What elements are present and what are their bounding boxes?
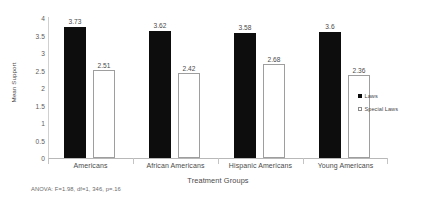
- y-axis-tick-label: 0.5: [5, 137, 45, 144]
- bar-laws[interactable]: 3.58: [234, 33, 256, 158]
- bar-group: 3.582.68Hispanic Americans: [218, 18, 303, 158]
- x-axis-tick-mark: [303, 158, 304, 164]
- bar-value-label: 2.36: [352, 67, 365, 74]
- y-axis-tick-label: 1.5: [5, 102, 45, 109]
- x-axis-category-label: African Americans: [133, 162, 218, 169]
- legend-label: Laws: [365, 93, 378, 99]
- y-axis-tick-labels: 00.511.522.533.54: [0, 0, 45, 209]
- x-axis-tick-mark: [387, 158, 388, 164]
- legend-item[interactable]: Special Laws: [358, 106, 418, 112]
- bar-group-bars: 3.732.51: [48, 18, 133, 158]
- bar-group: 3.732.51Americans: [48, 18, 133, 158]
- bar-chart: Mean Support 00.511.522.533.54 3.732.51A…: [0, 0, 422, 209]
- bar-value-label: 2.42: [182, 65, 195, 72]
- y-axis-tick-label: 1: [5, 120, 45, 127]
- x-axis-tick-mark: [48, 158, 49, 164]
- x-axis-category-label: Americans: [48, 162, 133, 169]
- bar-group: 3.622.42African Americans: [133, 18, 218, 158]
- legend-item[interactable]: Laws: [358, 93, 418, 99]
- bar-groups: 3.732.51Americans3.622.42African America…: [48, 18, 388, 158]
- bar-value-label: 3.62: [153, 22, 166, 29]
- chart-legend: LawsSpecial Laws: [358, 93, 418, 119]
- bar-group-bars: 3.582.68: [218, 18, 303, 158]
- y-axis-tick-label: 4: [5, 15, 45, 22]
- bar-value-label: 2.68: [267, 56, 280, 63]
- x-axis-category-label: Young Americans: [303, 162, 388, 169]
- bar-group-bars: 3.62.36: [303, 18, 388, 158]
- y-axis-tick-label: 2.5: [5, 67, 45, 74]
- bar-value-label: 3.58: [238, 24, 251, 31]
- bar-value-label: 3.73: [68, 18, 81, 25]
- plot-area: 3.732.51Americans3.622.42African America…: [48, 18, 388, 158]
- bar-value-label: 2.51: [97, 62, 110, 69]
- x-axis-tick-mark: [218, 158, 219, 164]
- bar-special-laws[interactable]: 2.42: [178, 73, 200, 158]
- x-axis-category-label: Hispanic Americans: [218, 162, 303, 169]
- legend-label: Special Laws: [365, 106, 399, 112]
- bar-group-bars: 3.622.42: [133, 18, 218, 158]
- anova-annotation: ANOVA: F=1.98, df=1, 346, p=.16: [31, 186, 121, 192]
- y-axis-tick-label: 0: [5, 155, 45, 162]
- y-axis-tick-label: 3.5: [5, 32, 45, 39]
- bar-laws[interactable]: 3.6: [319, 32, 341, 158]
- bar-value-label: 3.6: [325, 23, 334, 30]
- bar-special-laws[interactable]: 2.51: [93, 70, 115, 158]
- legend-swatch-icon: [358, 94, 362, 98]
- x-axis-title: Treatment Groups: [48, 176, 388, 185]
- bar-laws[interactable]: 3.73: [64, 27, 86, 158]
- y-axis-tick-label: 2: [5, 85, 45, 92]
- bar-group: 3.62.36Young Americans: [303, 18, 388, 158]
- bar-laws[interactable]: 3.62: [149, 31, 171, 158]
- bar-special-laws[interactable]: 2.68: [263, 64, 285, 158]
- y-axis-tick-label: 3: [5, 50, 45, 57]
- legend-swatch-icon: [358, 107, 362, 111]
- x-axis-tick-mark: [133, 158, 134, 164]
